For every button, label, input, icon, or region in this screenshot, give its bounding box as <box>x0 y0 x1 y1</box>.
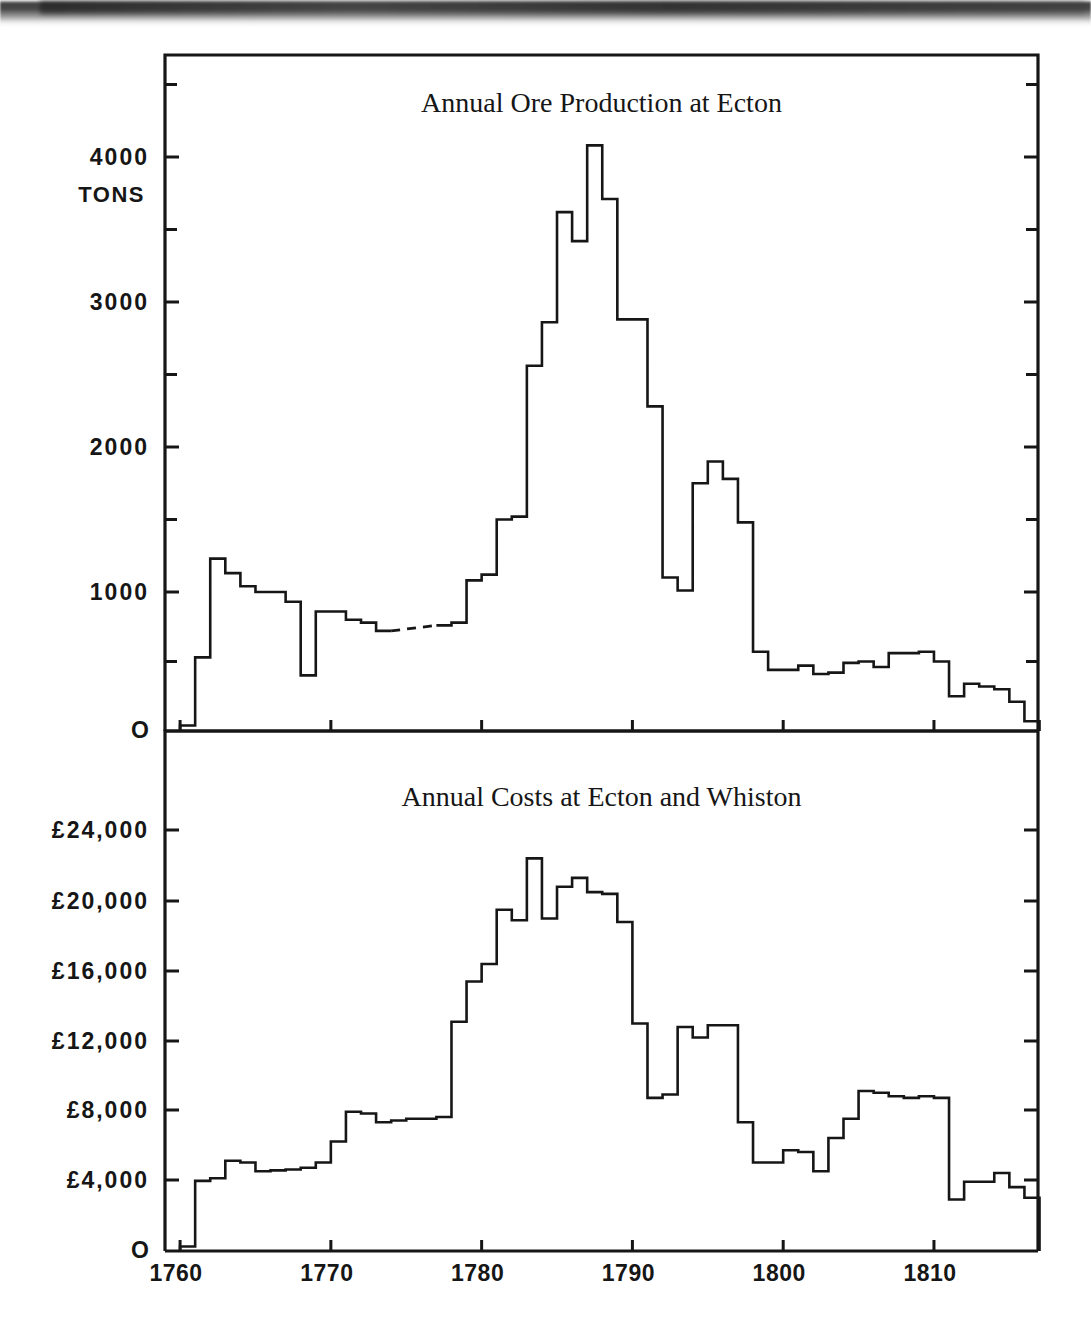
x-axis-tick-label: 1770 <box>300 1260 353 1286</box>
y-axis-zero-label: O <box>131 1237 149 1263</box>
y-axis-unit-label: TONS <box>78 182 145 207</box>
annual-costs-chart: £24,000£20,000£16,000£12,000£8,000£4,000… <box>52 731 1040 1286</box>
y-axis-tick-label: £20,000 <box>52 888 149 914</box>
x-axis-tick-label: 1760 <box>149 1260 202 1286</box>
x-axis-tick-label: 1810 <box>903 1260 956 1286</box>
data-line <box>180 858 1039 1251</box>
x-axis-tick-label: 1780 <box>451 1260 504 1286</box>
y-axis-tick-label: 1000 <box>90 579 149 605</box>
y-axis-tick-label: £4,000 <box>67 1167 149 1193</box>
y-axis-tick-label: £16,000 <box>52 958 149 984</box>
y-axis-zero-label: O <box>131 717 149 743</box>
y-axis-tick-label: £24,000 <box>52 817 149 843</box>
y-axis-tick-label: 4000 <box>90 144 149 170</box>
data-line-solid-late <box>436 145 1039 731</box>
chart-title: Annual Ore Production at Ecton <box>421 87 782 118</box>
y-axis-tick-label: £8,000 <box>67 1097 149 1123</box>
x-axis-tick-label: 1790 <box>602 1260 655 1286</box>
y-axis-tick-label: £12,000 <box>52 1028 149 1054</box>
chart-sheet: 4000300020001000OTONSAnnual Ore Producti… <box>0 0 1091 1338</box>
data-line-dashed-estimate <box>391 625 436 631</box>
data-line-solid-early <box>180 559 391 731</box>
y-axis-tick-label: 3000 <box>90 289 149 315</box>
y-axis-tick-label: 2000 <box>90 434 149 460</box>
ore-production-chart: 4000300020001000OTONSAnnual Ore Producti… <box>78 55 1039 743</box>
charts-figure: 4000300020001000OTONSAnnual Ore Producti… <box>0 0 1091 1338</box>
x-axis-tick-label: 1800 <box>753 1260 806 1286</box>
chart-title: Annual Costs at Ecton and Whiston <box>402 781 802 812</box>
